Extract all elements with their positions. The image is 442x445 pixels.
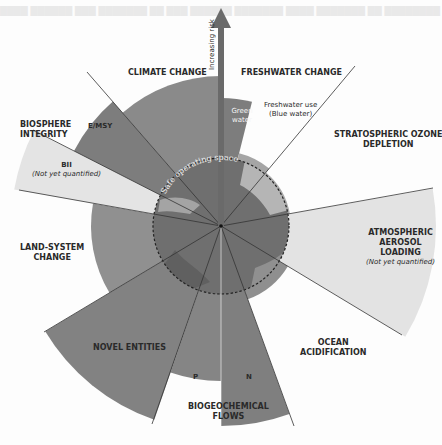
label-novel-entities: NOVEL ENTITIES: [93, 343, 166, 353]
planetary-boundaries-diagram: ████ ██████ ███ ███████ ██ ███ ██████ ██…: [0, 0, 442, 445]
diagram-graphic: Safe operating space: [0, 0, 442, 445]
label-atmospheric-aerosol: ATMOSPHERIC AEROSOL LOADING (Not yet qua…: [366, 228, 435, 267]
label-emsy: E/MSY: [88, 122, 112, 131]
label-bii: BII (Not yet quantified): [32, 161, 101, 179]
label-freshwater-change: FRESHWATER CHANGE: [241, 68, 342, 78]
label-ocean-acidification: OCEAN ACIDIFICATION: [300, 338, 366, 358]
label-phosphorus: P: [193, 373, 198, 382]
label-biogeochemical-flows: BIOGEOCHEMICAL FLOWS: [188, 402, 269, 422]
label-blue-water: Freshwater use (Blue water): [264, 101, 317, 119]
label-biosphere-integrity: BIOSPHERE INTEGRITY: [20, 120, 71, 140]
label-green-water: Green water: [229, 107, 255, 125]
label-land-system-change: LAND-SYSTEM CHANGE: [20, 243, 84, 263]
label-nitrogen: N: [246, 373, 252, 382]
label-climate-change: CLIMATE CHANGE: [128, 68, 207, 78]
increasing-risk-label: Increasing risk: [208, 19, 216, 70]
label-stratospheric-ozone: STRATOSPHERIC OZONE DEPLETION: [334, 130, 442, 150]
